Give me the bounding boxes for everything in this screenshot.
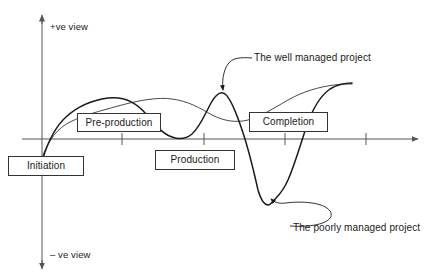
positive-view-label: +ve view (50, 21, 88, 32)
phase-box-completion: Completion (249, 112, 328, 132)
diagram-svg (0, 0, 430, 280)
phase-box-preproduction: Pre-production (77, 113, 161, 132)
diagram-canvas: +ve view – ve view Initiation Pre-produc… (0, 0, 430, 280)
phase-box-production: Production (155, 150, 235, 170)
callout-well-managed-project: The well managed project (254, 52, 371, 63)
poorly-managed-curve (43, 83, 352, 205)
well-managed-leader-line (223, 58, 252, 90)
negative-view-label: – ve view (50, 249, 91, 260)
phase-box-initiation: Initiation (8, 156, 84, 176)
callout-poorly-managed-project: The poorly managed project (293, 222, 420, 233)
